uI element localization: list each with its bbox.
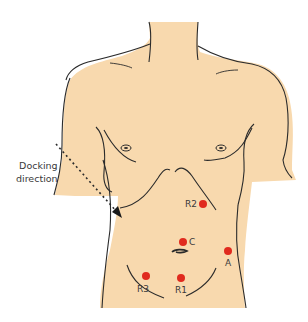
port-label-c: C: [189, 237, 195, 248]
port-label-r3: R3: [137, 284, 149, 295]
torso-silhouette: [55, 22, 296, 308]
port-label-r1: R1: [175, 285, 187, 296]
right-nipple-center: [219, 147, 223, 149]
left-nipple-center: [124, 147, 128, 149]
docking-direction-label: Docking direction: [16, 159, 58, 185]
port-r3: [142, 272, 150, 280]
port-c: [179, 238, 187, 246]
port-r1: [177, 274, 185, 282]
port-a: [224, 247, 232, 255]
port-label-a: A: [225, 258, 231, 269]
docking-label-line1: Docking: [16, 159, 58, 172]
port-r2: [199, 200, 207, 208]
docking-label-line2: direction: [16, 172, 58, 185]
port-label-r2: R2: [185, 199, 197, 210]
